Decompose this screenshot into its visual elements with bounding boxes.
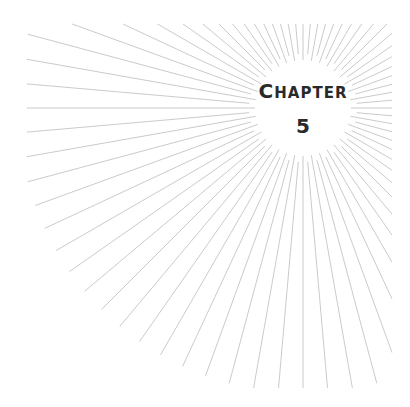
sunburst-ray bbox=[334, 145, 392, 214]
sunburst-ray bbox=[35, 124, 258, 205]
chapter-label-rest: HAPTER bbox=[274, 84, 347, 102]
chapter-number: 5 bbox=[253, 114, 353, 138]
sunburst-ray bbox=[229, 160, 289, 383]
sunburst-ray bbox=[357, 113, 392, 116]
sunburst-ray bbox=[85, 139, 267, 291]
sunburst-ray bbox=[206, 153, 287, 376]
sunburst-ray bbox=[355, 84, 392, 94]
sunburst-ray bbox=[27, 113, 249, 132]
sunburst-decoration bbox=[0, 0, 410, 407]
sunburst-ray bbox=[203, 24, 266, 77]
chapter-label-initial: C bbox=[259, 79, 275, 103]
sunburst-ray bbox=[326, 157, 392, 299]
sunburst-ray bbox=[281, 24, 290, 56]
sunburst-ray bbox=[158, 24, 262, 84]
sunburst-ray bbox=[45, 131, 254, 229]
sunburst-ray bbox=[219, 24, 265, 70]
sunburst-ray bbox=[183, 24, 259, 77]
sunburst-ray bbox=[341, 24, 387, 70]
chapter-heading: CHAPTER 5 bbox=[253, 80, 353, 138]
sunburst-ray bbox=[183, 157, 281, 366]
sunburst-ray bbox=[317, 24, 326, 56]
sunburst-ray bbox=[296, 24, 299, 54]
sunburst-ray bbox=[308, 24, 311, 54]
sunburst-ray bbox=[341, 146, 392, 197]
sunburst-ray bbox=[233, 24, 273, 71]
sunburst-ray bbox=[347, 139, 392, 170]
sunburst-ray bbox=[334, 24, 374, 71]
sunburst-ray bbox=[308, 162, 328, 388]
chapter-label: CHAPTER bbox=[253, 80, 353, 104]
sunburst-ray bbox=[317, 160, 377, 383]
sunburst-ray bbox=[28, 34, 251, 94]
sunburst-ray bbox=[28, 122, 251, 182]
sunburst-ray bbox=[355, 122, 392, 132]
sunburst-ray bbox=[102, 146, 265, 309]
sunburst-ray bbox=[357, 100, 392, 103]
sunburst-ray bbox=[347, 46, 392, 77]
sunburst-ray bbox=[27, 84, 249, 103]
sunburst-ray bbox=[123, 24, 254, 85]
sunburst-ray bbox=[120, 145, 272, 326]
sunburst-ray bbox=[279, 162, 299, 388]
sunburst-ray bbox=[72, 24, 258, 92]
sunburst-ray bbox=[327, 150, 392, 263]
